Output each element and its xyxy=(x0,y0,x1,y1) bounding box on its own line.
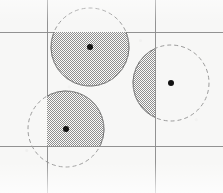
figure-container xyxy=(0,0,223,193)
scan-fade-overlay xyxy=(0,0,223,193)
geometry-diagram xyxy=(0,0,223,193)
